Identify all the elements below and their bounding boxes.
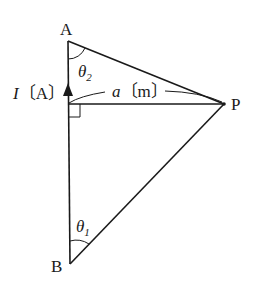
- label-b: B: [51, 257, 62, 276]
- label-a: A: [60, 20, 73, 39]
- label-theta2: θ2: [78, 62, 92, 83]
- label-theta1: θ1: [76, 217, 90, 238]
- label-current: I〔A〕: [12, 84, 65, 103]
- label-p: P: [231, 95, 240, 114]
- angle-arc-theta2: [68, 48, 85, 59]
- point-p-dot: [222, 102, 226, 106]
- right-angle-icon: [68, 104, 80, 117]
- distance-brace-left: [69, 92, 105, 103]
- angle-arc-theta1: [70, 240, 89, 244]
- segment-bp: [70, 104, 224, 264]
- wire-ab: [68, 41, 70, 264]
- label-distance: a〔m〕: [112, 82, 168, 101]
- wire-field-diagram: A B P θ2 θ1 I〔A〕 a〔m〕: [0, 0, 265, 293]
